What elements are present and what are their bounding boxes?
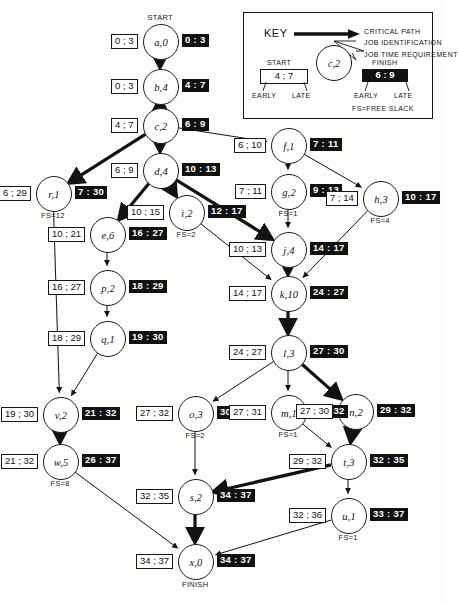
edge-w-x xyxy=(74,471,178,548)
node-k[interactable]: k,10 xyxy=(271,276,307,312)
node-f[interactable]: f,1 xyxy=(271,128,307,164)
start-box-m: 27 ; 31 xyxy=(229,405,266,420)
key-early-left-label: EARLY xyxy=(252,92,276,99)
start-box-j: 10 ; 13 xyxy=(229,242,266,257)
start-box-u: 32 ; 36 xyxy=(289,508,326,523)
finish-box-p: 18 : 29 xyxy=(129,280,167,293)
node-t[interactable]: t,3 xyxy=(331,444,367,480)
edge-q-v xyxy=(71,353,97,396)
start-box-f: 6 ; 10 xyxy=(234,138,266,153)
node-label-m: m,1 xyxy=(281,407,297,418)
finish-box-q: 19 : 30 xyxy=(129,331,167,344)
free-slack-w: FS=8 xyxy=(51,479,70,488)
node-q[interactable]: q,1 xyxy=(90,321,126,357)
node-u[interactable]: u,1 xyxy=(331,498,367,534)
finish-box-x: 34 : 37 xyxy=(217,554,255,567)
key-start-label: START xyxy=(267,59,291,66)
edge-l-o xyxy=(213,362,273,402)
key-early-right-label: EARLY xyxy=(354,92,378,99)
start-box-v: 19 ; 30 xyxy=(1,407,38,422)
key-title: KEY xyxy=(264,27,288,39)
key-job-time-label: JOB TIME REQUIREMENT xyxy=(364,51,458,58)
finish-box-k: 24 : 27 xyxy=(310,286,348,299)
finish-box-t: 32 : 35 xyxy=(370,454,408,467)
start-box-t: 29 ; 32 xyxy=(289,454,326,469)
start-box-c: 4 ; 7 xyxy=(111,118,138,133)
key-finish-label: FINISH xyxy=(372,59,397,66)
node-label-p: p,2 xyxy=(101,282,115,293)
free-slack-u: FS=1 xyxy=(339,533,358,542)
finish-box-e: 16 : 27 xyxy=(129,227,167,240)
finish-box-d: 10 : 13 xyxy=(182,163,220,176)
free-slack-h: FS=4 xyxy=(371,216,390,225)
finish-box-l: 27 : 30 xyxy=(310,345,348,358)
free-slack-m: FS=1 xyxy=(279,430,298,439)
start-box-e: 10 ; 21 xyxy=(48,227,85,242)
node-label-c: c,2 xyxy=(154,120,167,131)
start-box-k: 14 ; 17 xyxy=(229,286,266,301)
node-w[interactable]: w,5 xyxy=(43,444,79,480)
start-box-a: 0 ; 3 xyxy=(111,34,138,49)
node-label-r: r,1 xyxy=(48,188,59,199)
key-critical-path-label: CRITICAL PATH xyxy=(364,28,420,35)
finish-box-f: 7 : 11 xyxy=(310,138,342,151)
start-box-n: 27 ; 30 xyxy=(296,404,333,419)
edge-m-t xyxy=(302,423,332,447)
node-label-g: g,2 xyxy=(282,186,296,197)
node-label-v: v,2 xyxy=(55,409,67,420)
start-box-o: 27 ; 32 xyxy=(136,406,173,421)
free-slack-g: FS=1 xyxy=(279,209,298,218)
start-box-r: 6 ; 29 xyxy=(0,186,31,201)
node-g[interactable]: g,2 xyxy=(271,174,307,210)
node-h[interactable]: h,3 xyxy=(363,181,399,217)
node-label-u: u,1 xyxy=(342,510,356,521)
node-j[interactable]: j,4 xyxy=(271,232,307,268)
finish-box-s: 34 : 37 xyxy=(217,489,255,502)
node-label-f: f,1 xyxy=(283,140,294,151)
node-p[interactable]: p,2 xyxy=(90,270,126,306)
start-box-l: 24 ; 27 xyxy=(229,345,266,360)
finish-box-i: 12 : 17 xyxy=(208,205,246,218)
key-late-left-label: LATE xyxy=(292,92,311,99)
key-job-identification-label: JOB IDENTIFICATION xyxy=(364,39,442,46)
node-i[interactable]: i,2 xyxy=(169,195,205,231)
node-c[interactable]: c,2 xyxy=(143,108,179,144)
key-finish-box: 6 : 9 xyxy=(362,69,408,82)
node-label-l: l,3 xyxy=(283,347,294,358)
edge-n-t-critical xyxy=(351,428,352,438)
finish-box-u: 33 : 37 xyxy=(370,508,408,521)
start-box-g: 7 ; 11 xyxy=(235,184,266,199)
node-o[interactable]: o,3 xyxy=(178,396,214,432)
node-s[interactable]: s,2 xyxy=(178,479,214,515)
node-r[interactable]: r,1 xyxy=(36,176,72,212)
node-e[interactable]: e,6 xyxy=(90,217,126,253)
node-label-i: i,2 xyxy=(181,207,192,218)
finish-box-j: 14 : 17 xyxy=(310,242,348,255)
key-sample-node: c,2 xyxy=(316,45,352,81)
edge-f-h xyxy=(303,154,361,188)
node-label-a: a,0 xyxy=(154,36,168,47)
finish-box-c: 6 : 9 xyxy=(182,118,209,131)
node-label-d: d,4 xyxy=(154,165,168,176)
start-box-p: 16 ; 27 xyxy=(48,280,85,295)
node-label-n: n,2 xyxy=(349,406,363,417)
finish-box-w: 26 : 37 xyxy=(82,454,120,467)
node-label-q: q,1 xyxy=(101,333,115,344)
node-x[interactable]: x,0 xyxy=(178,544,214,580)
node-d[interactable]: d,4 xyxy=(143,153,179,189)
finish-box-n: 29 : 32 xyxy=(377,404,415,417)
start-box-h: 7 ; 14 xyxy=(326,191,358,206)
start-box-s: 32 ; 35 xyxy=(136,489,173,504)
node-a[interactable]: a,0 xyxy=(143,24,179,60)
start-tag-a: START xyxy=(148,13,173,22)
start-box-q: 18 ; 29 xyxy=(48,331,85,346)
node-label-h: h,3 xyxy=(374,193,388,204)
node-v[interactable]: v,2 xyxy=(43,397,79,433)
node-b[interactable]: b,4 xyxy=(143,69,179,105)
key-sample-node-label: c,2 xyxy=(328,58,340,69)
edge-u-x xyxy=(216,520,332,555)
legend-key-box: KEY CRITICAL PATH JOB IDENTIFICATION JOB… xyxy=(243,12,433,119)
node-label-s: s,2 xyxy=(190,491,203,502)
node-l[interactable]: l,3 xyxy=(271,335,307,371)
